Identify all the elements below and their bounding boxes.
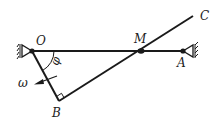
slider-joint-M — [138, 48, 145, 54]
label-B: B — [51, 106, 61, 120]
label-phi: φ — [47, 54, 63, 67]
pivot-support-O — [17, 44, 35, 59]
mechanism-diagram: O M A B C φ ω — [0, 0, 224, 127]
label-C: C — [200, 9, 209, 23]
label-M: M — [133, 32, 147, 46]
label-A: A — [176, 56, 186, 70]
label-omega: ω — [18, 76, 28, 90]
label-O: O — [36, 34, 46, 48]
rod-BC — [59, 16, 193, 101]
